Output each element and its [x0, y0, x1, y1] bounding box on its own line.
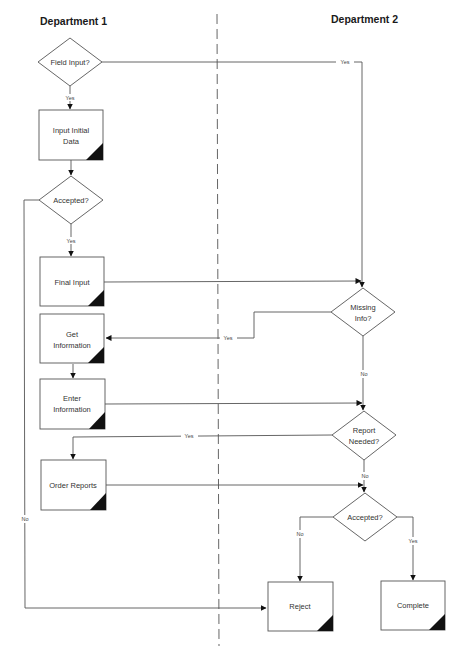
edge-field-yes-right: Yes: [102, 58, 362, 287]
node-label: Enter: [63, 394, 81, 403]
decision-field-input[interactable]: Field Input?: [38, 38, 102, 86]
node-label: Order Reports: [49, 481, 97, 490]
process-order-reports[interactable]: Order Reports: [41, 460, 106, 510]
process-enter-information[interactable]: Enter Information: [40, 379, 105, 429]
node-label: Final Input: [54, 278, 90, 287]
edge-report-no: No: [358, 460, 371, 492]
edge-label-no: No: [361, 473, 368, 479]
process-input-initial-data[interactable]: Input Initial Data: [39, 110, 103, 160]
process-complete[interactable]: Complete: [381, 581, 445, 630]
node-label: Complete: [397, 601, 429, 610]
edge-missing-no: No: [357, 336, 370, 410]
edge-label-no: No: [21, 516, 28, 522]
edge-report-yes: Yes: [73, 432, 332, 459]
edge-final-to-missing: [104, 281, 361, 282]
node-label: Accepted?: [347, 513, 382, 522]
node-label: Missing: [350, 303, 375, 312]
node-label: Info?: [355, 314, 372, 323]
edge-field-yes-down: Yes: [63, 86, 77, 109]
decision-report-needed[interactable]: Report Needed?: [332, 411, 396, 460]
node-label: Input Initial: [53, 126, 90, 135]
decision-missing-info[interactable]: Missing Info?: [331, 288, 395, 336]
lane-title-department-1: Department 1: [40, 15, 107, 27]
edge-label-yes: Yes: [224, 335, 233, 341]
decision-accepted-2[interactable]: Accepted?: [333, 493, 397, 541]
edge-enter-to-report: [105, 403, 362, 404]
process-reject[interactable]: Reject: [268, 582, 333, 631]
edge-label-yes: Yes: [341, 59, 350, 65]
edge-label-yes: Yes: [185, 433, 194, 439]
flowchart-canvas: Department 1 Department 2 Yes Yes Yes No…: [0, 0, 466, 659]
node-label: Reject: [289, 602, 311, 611]
edge-label-yes: Yes: [409, 538, 418, 544]
node-label: Needed?: [349, 437, 379, 446]
edge-label-no: No: [296, 531, 303, 537]
edge-accepted1-yes: Yes: [64, 224, 78, 256]
edge-label-yes: Yes: [67, 238, 76, 244]
node-label: Accepted?: [53, 196, 88, 205]
node-label: Information: [53, 341, 91, 350]
edge-label-yes: Yes: [66, 95, 75, 101]
node-label: Report: [353, 426, 376, 435]
decision-accepted-1[interactable]: Accepted?: [39, 176, 103, 224]
process-final-input[interactable]: Final Input: [40, 257, 104, 306]
edge-accepted2-no: No: [294, 517, 333, 581]
node-label: Data: [63, 137, 80, 146]
node-label: Information: [53, 405, 91, 414]
edge-label-no: No: [360, 371, 367, 377]
node-label: Get: [66, 330, 79, 339]
process-get-information[interactable]: Get Information: [40, 314, 104, 363]
node-label: Field Input?: [50, 58, 89, 67]
lane-title-department-2: Department 2: [331, 13, 398, 25]
edge-accepted2-yes: Yes: [397, 517, 421, 580]
swimlane-divider: [217, 14, 219, 646]
